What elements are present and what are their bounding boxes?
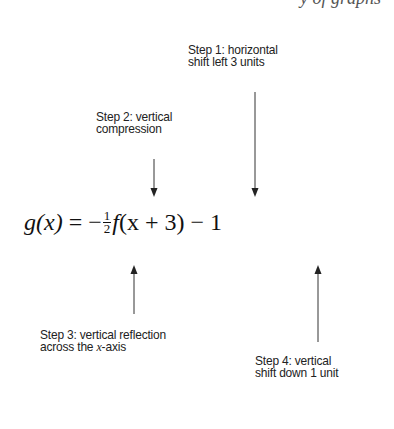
formula-argument: (x + 3) — [119, 209, 185, 235]
step1-arrow-icon — [252, 92, 259, 197]
step1-label: Step 1: horizontal shift left 3 units — [188, 44, 278, 68]
step3-line2: across the x-axis — [40, 341, 166, 353]
formula-lhs: g(x) — [24, 209, 63, 235]
formula-function: f — [112, 209, 119, 235]
step3-label: Step 3: vertical reflection across the x… — [40, 329, 166, 353]
formula-fraction: 12 — [103, 210, 112, 235]
step4-arrow-icon — [315, 265, 322, 342]
step2-label: Step 2: vertical compression — [96, 111, 172, 135]
transformation-formula: g(x) = −12f(x + 3) − 1 — [24, 209, 222, 237]
step2-arrow-icon — [151, 159, 158, 197]
formula-sign: − — [88, 209, 102, 235]
formula-constant: − 1 — [190, 209, 222, 235]
step3-arrow-icon — [131, 265, 138, 314]
step4-label: Step 4: vertical shift down 1 unit — [255, 355, 338, 379]
formula-equals: = — [69, 209, 83, 235]
